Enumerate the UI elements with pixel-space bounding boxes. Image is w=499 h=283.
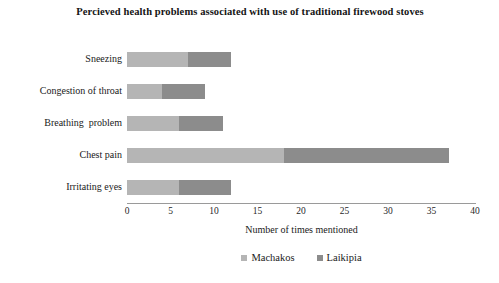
legend-item-laikipia[interactable]: Laikipia (317, 252, 362, 263)
legend-swatch-icon (241, 255, 247, 261)
bar-row (127, 148, 475, 163)
plot-area (127, 43, 475, 203)
y-axis-label-0: Sneezing (0, 53, 122, 65)
legend-swatch-icon (317, 255, 323, 261)
chart-title: Percieved health problems associated wit… (70, 5, 430, 18)
bar-segment-laikipia (188, 52, 232, 67)
bar-segment-laikipia (284, 148, 449, 163)
y-axis-label-1: Congestion of throat (0, 85, 122, 97)
x-tick-15: 15 (243, 206, 273, 216)
bar-row (127, 180, 475, 195)
bar-segment-machakos (127, 52, 188, 67)
chart-container: Percieved health problems associated wit… (0, 0, 499, 283)
legend-label: Laikipia (327, 252, 362, 263)
legend-label: Machakos (251, 252, 294, 263)
x-axis-line (127, 203, 476, 204)
bar-row (127, 52, 475, 67)
bar-segment-machakos (127, 148, 284, 163)
y-axis-category-labels: SneezingCongestion of throatBreathing pr… (0, 43, 122, 203)
x-tick-0: 0 (112, 206, 142, 216)
bar-segment-machakos (127, 116, 179, 131)
chart-legend: MachakosLaikipia (127, 252, 476, 263)
x-tick-5: 5 (156, 206, 186, 216)
x-tick-30: 30 (373, 206, 403, 216)
bar-segment-laikipia (162, 84, 206, 99)
x-axis-title: Number of times mentioned (127, 224, 476, 235)
bar-row (127, 84, 475, 99)
y-axis-label-3: Chest pain (0, 149, 122, 161)
x-tick-40: 40 (460, 206, 490, 216)
y-axis-label-2: Breathing problem (0, 117, 122, 129)
bar-segment-machakos (127, 84, 162, 99)
legend-item-machakos[interactable]: Machakos (241, 252, 294, 263)
x-tick-20: 20 (286, 206, 316, 216)
bar-segment-machakos (127, 180, 179, 195)
bar-segment-laikipia (179, 116, 223, 131)
y-axis-label-4: Irritating eyes (0, 181, 122, 193)
bar-segment-laikipia (179, 180, 231, 195)
x-axis-tick-labels: 0510152025303540 (0, 206, 499, 220)
x-tick-35: 35 (417, 206, 447, 216)
bar-row (127, 116, 475, 131)
x-tick-25: 25 (330, 206, 360, 216)
x-tick-10: 10 (199, 206, 229, 216)
